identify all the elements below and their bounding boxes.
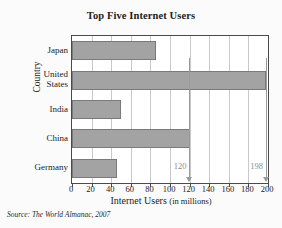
bar-united-states <box>72 71 266 90</box>
category-label-india: India <box>18 104 68 114</box>
gridline <box>229 36 230 183</box>
x-tick-160: 160 <box>221 184 234 194</box>
plot-area: 120198 <box>71 35 269 184</box>
x-tick-100: 100 <box>163 184 176 194</box>
annotation-line-198 <box>266 58 267 177</box>
annotation-line-120 <box>189 58 190 177</box>
chart-figure: Top Five Internet Users Country JapanUni… <box>0 0 282 228</box>
x-tick-120: 120 <box>182 184 195 194</box>
bar-india <box>72 100 121 119</box>
x-tick-200: 200 <box>261 184 274 194</box>
x-tick-20: 20 <box>86 184 95 194</box>
bar-germany <box>72 159 117 178</box>
chart-title: Top Five Internet Users <box>0 10 282 21</box>
category-axis-labels: JapanUnitedStatesIndiaChinaGermany <box>18 35 68 182</box>
category-label-united-states: UnitedStates <box>18 69 68 89</box>
gridline <box>209 36 210 183</box>
x-tick-80: 80 <box>145 184 154 194</box>
annotation-label-198: 198 <box>242 161 263 171</box>
source-note: Source: The World Almanac, 2007 <box>7 210 110 219</box>
plot-inner: 120198 <box>72 36 268 183</box>
category-label-japan: Japan <box>18 45 68 55</box>
x-tick-40: 40 <box>106 184 115 194</box>
x-tick-140: 140 <box>202 184 215 194</box>
x-tick-60: 60 <box>126 184 135 194</box>
bar-china <box>72 129 190 148</box>
x-axis-title-main: Internet Users <box>110 195 166 206</box>
x-axis-title-units: (in millions) <box>169 196 211 206</box>
x-tick-0: 0 <box>69 184 73 194</box>
annotation-label-120: 120 <box>166 161 187 171</box>
x-tick-180: 180 <box>241 184 254 194</box>
annotation-arrow-198 <box>263 177 269 182</box>
annotation-arrow-120 <box>186 177 192 182</box>
x-axis-title: Internet Users (in millions) <box>40 195 282 206</box>
category-label-germany: Germany <box>18 162 68 172</box>
bar-japan <box>72 41 156 60</box>
category-label-china: China <box>18 133 68 143</box>
